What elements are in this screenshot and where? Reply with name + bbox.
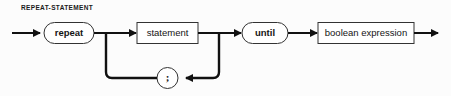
railroad-diagram-page: REPEAT-STATEMENT repeat statement until …	[0, 0, 451, 96]
terminal-until-label: until	[255, 27, 275, 38]
statement-entry-arrow-icon	[129, 29, 137, 37]
terminal-repeat-label: repeat	[55, 27, 84, 38]
terminal-separator-label: ;	[166, 71, 170, 83]
nonterminal-boolean-expression-label: boolean expression	[325, 27, 407, 38]
loop-arrow-icon	[185, 74, 193, 82]
exit-arrow-icon	[431, 29, 439, 37]
until-entry-arrow-icon	[234, 29, 242, 37]
nonterminal-statement-label: statement	[147, 27, 189, 38]
railroad-diagram-canvas: repeat statement until boolean expressio…	[0, 0, 451, 96]
boolean-entry-arrow-icon	[310, 29, 318, 37]
entry-arrow-icon	[33, 29, 41, 37]
